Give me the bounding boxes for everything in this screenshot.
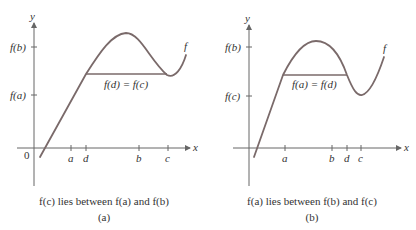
y-axis-label: y bbox=[29, 10, 35, 22]
origin-label: 0 bbox=[24, 149, 30, 161]
x-tick-label-d: d bbox=[83, 152, 89, 164]
sublabel-a: (a) bbox=[0, 211, 208, 223]
panel-b: y x f(b) f(c) a b d c f(a) = f(d) f bbox=[225, 12, 409, 186]
x-tick-label-a: a bbox=[282, 152, 288, 164]
x-axis-label: x bbox=[192, 141, 198, 153]
y-tick-label-fa: f(a) bbox=[10, 89, 26, 102]
x-tick-label-d: d bbox=[344, 152, 350, 164]
x-tick-label-c: c bbox=[165, 152, 170, 164]
y-tick-label-fb: f(b) bbox=[225, 41, 241, 54]
y-tick-label-fb: f(b) bbox=[10, 41, 26, 54]
curve-label: f bbox=[184, 40, 189, 52]
function-curve bbox=[40, 33, 186, 157]
x-tick-label-a: a bbox=[68, 152, 74, 164]
x-tick-label-c: c bbox=[358, 152, 363, 164]
y-tick-label-fc: f(c) bbox=[225, 90, 241, 103]
x-tick-label-b: b bbox=[329, 152, 335, 164]
panel-a: y x 0 f(b) f(a) a d b c f(d) = f(c) f bbox=[10, 10, 198, 186]
segment-label: f(a) = f(d) bbox=[292, 78, 337, 91]
curve-label: f bbox=[383, 42, 388, 54]
caption-b: f(a) lies between f(b) and f(c) bbox=[208, 195, 416, 207]
y-axis-label: y bbox=[244, 12, 250, 24]
x-tick-label-b: b bbox=[136, 152, 142, 164]
x-axis-label: x bbox=[403, 141, 409, 153]
function-curve bbox=[254, 41, 384, 157]
segment-label: f(d) = f(c) bbox=[104, 78, 148, 91]
sublabel-b: (b) bbox=[208, 211, 416, 223]
caption-a: f(c) lies between f(a) and f(b) bbox=[0, 195, 208, 207]
